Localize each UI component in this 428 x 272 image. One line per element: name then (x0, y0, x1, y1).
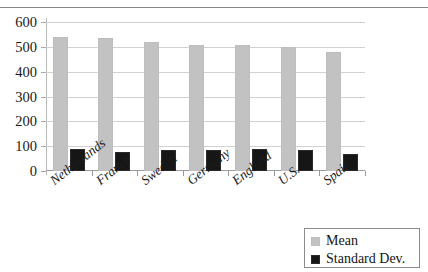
y-tick-label-400: 400 (15, 64, 37, 79)
bar-mean (281, 47, 296, 171)
mean-swatch-icon (311, 237, 320, 246)
y-tick-label-500: 500 (15, 40, 37, 55)
y-tick-label-0: 0 (30, 164, 37, 179)
y-tick-label-200: 200 (15, 114, 37, 129)
bar-standard-dev (298, 150, 313, 171)
bar-mean (53, 37, 68, 171)
bar-group (274, 22, 320, 171)
y-tick-0 (41, 171, 46, 172)
bar-group (228, 22, 274, 171)
bar-chart-figure: 0100200300400500600 NetherlandsFranceSwe… (0, 0, 428, 272)
bar-mean (144, 42, 159, 171)
bar-group (137, 22, 183, 171)
legend-item-standard-dev: Standard Dev. (311, 250, 419, 268)
chart-legend: Mean Standard Dev. (304, 228, 420, 268)
bar-mean (326, 52, 341, 171)
y-tick-label-600: 600 (15, 15, 37, 30)
legend-item-mean: Mean (311, 232, 419, 250)
bar-mean (235, 45, 250, 171)
top-divider-rule (0, 7, 428, 8)
bar-mean (189, 45, 204, 171)
y-tick-label-300: 300 (15, 89, 37, 104)
standard-dev-swatch-icon (311, 255, 320, 264)
bar-group (319, 22, 365, 171)
legend-label-standard-dev: Standard Dev. (326, 252, 405, 266)
y-tick-label-100: 100 (15, 139, 37, 154)
x-axis-category-labels: NetherlandsFranceSwedenGermanyEnglandU.S… (46, 176, 376, 232)
legend-label-mean: Mean (326, 234, 358, 248)
